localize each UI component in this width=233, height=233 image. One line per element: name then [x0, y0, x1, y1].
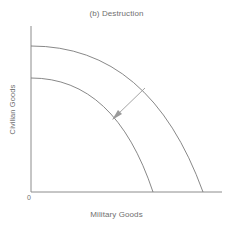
y-axis-label: Civilian Goods: [8, 60, 17, 160]
ppf-destruction-figure: (b) Destruction Civilian Goods Military …: [0, 0, 233, 233]
ppf-curve-original: [31, 46, 203, 192]
origin-label: 0: [27, 194, 31, 201]
x-axis-label: Military Goods: [0, 210, 233, 219]
ppf-curve-after-destruction: [31, 78, 153, 192]
shift-arrow-shaft: [116, 88, 145, 116]
chart-plot-area: [0, 0, 233, 233]
